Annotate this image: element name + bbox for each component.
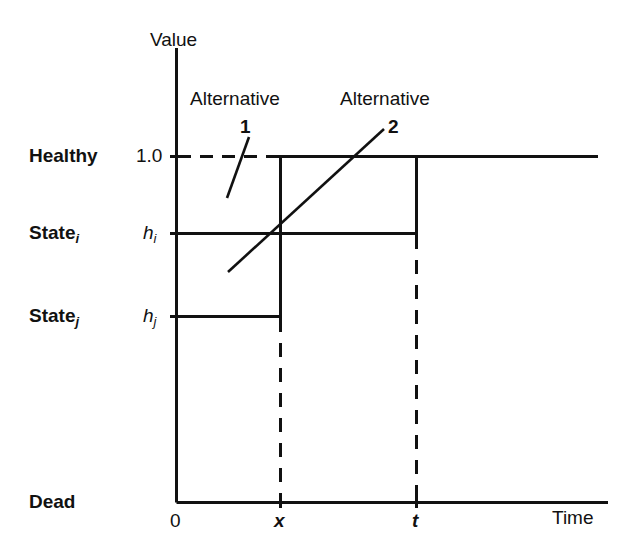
y-tickvalue-state-j: hj: [143, 306, 156, 325]
y-label-state-i-text: State: [29, 222, 75, 243]
x-tick-label-x: x: [274, 511, 285, 530]
alternative-2-leader-line: [228, 129, 384, 272]
x-axis-title: Time: [552, 508, 594, 527]
y-tickvalue-healthy: 1.0: [136, 146, 162, 165]
y-tickvalue-state-j-text: h: [143, 305, 154, 326]
alternative-1-leader-line: [227, 137, 249, 198]
y-label-state-j-text: State: [29, 305, 75, 326]
y-tickvalue-state-i: hi: [143, 223, 156, 242]
y-axis-title: Value: [150, 30, 197, 49]
x-tick-label-origin: 0: [170, 511, 181, 530]
y-label-state-j-subscript: j: [75, 314, 79, 329]
callout-alternative-1-label: Alternative: [190, 89, 280, 108]
y-label-state-i: Statei: [29, 223, 79, 242]
callout-alternative-1-number: 1: [240, 117, 251, 136]
y-label-dead: Dead: [29, 492, 75, 511]
x-tick-label-t: t: [412, 511, 418, 530]
y-label-state-j: Statej: [29, 306, 79, 325]
callout-alternative-2-number: 2: [388, 117, 399, 136]
y-label-state-i-subscript: i: [75, 231, 79, 246]
callout-alternative-2-label: Alternative: [340, 89, 430, 108]
y-tickvalue-state-i-text: h: [143, 222, 154, 243]
y-label-healthy: Healthy: [29, 146, 98, 165]
diagram-canvas: [0, 0, 623, 548]
health-value-diagram: Value Time Healthy 1.0 Statei hi Statej …: [0, 0, 623, 548]
